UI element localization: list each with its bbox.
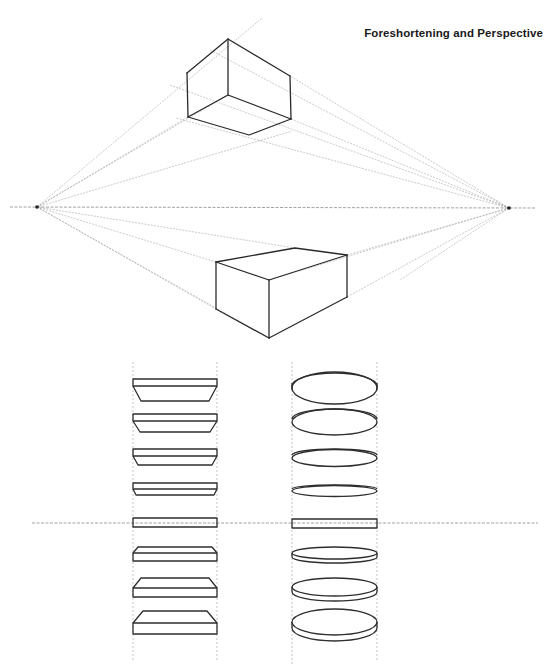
slab-6 xyxy=(133,547,217,561)
disc-1 xyxy=(292,372,377,404)
disc-7 xyxy=(292,578,377,601)
ellipse-column xyxy=(292,372,377,641)
disc-3 xyxy=(292,449,377,467)
construction-lines-left-vp xyxy=(37,18,295,338)
vanishing-point-right xyxy=(507,206,511,210)
slab-5 xyxy=(133,518,217,527)
disc-5 xyxy=(292,519,377,528)
construction-lines-right-vp xyxy=(170,50,509,297)
disc-2 xyxy=(292,409,377,435)
box-above-horizon xyxy=(187,39,291,135)
disc-8 xyxy=(292,609,377,641)
slab-1 xyxy=(133,379,217,401)
slab-2 xyxy=(133,414,217,432)
vanishing-point-left xyxy=(35,205,39,209)
perspective-diagram xyxy=(0,0,551,666)
box-below-horizon xyxy=(216,248,347,338)
disc-4 xyxy=(292,485,377,497)
slab-column xyxy=(133,379,217,634)
slab-7 xyxy=(133,578,217,597)
slab-4 xyxy=(133,483,217,495)
disc-6 xyxy=(292,547,377,563)
vertical-guides xyxy=(133,362,377,664)
horizon-line-upper xyxy=(10,207,535,208)
slab-8 xyxy=(133,611,217,634)
slab-3 xyxy=(133,449,217,465)
